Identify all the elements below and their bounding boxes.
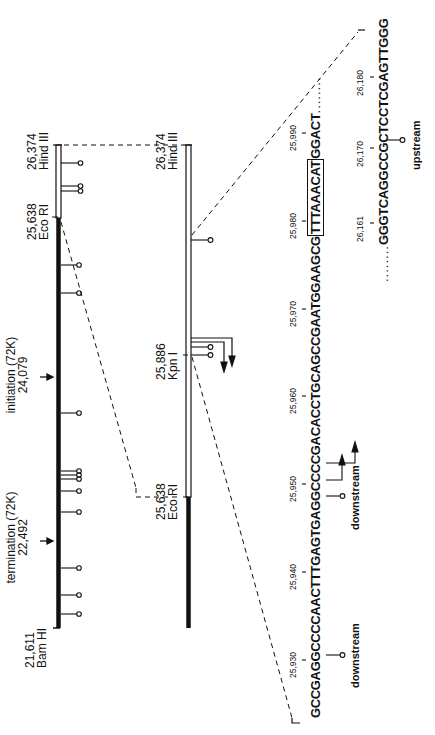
seq1-tick-label: 25,940 [289, 564, 298, 590]
seq1-tick-label: 25,970 [289, 301, 298, 327]
termination-position: 22,492 [17, 490, 29, 585]
enzyme-label: Eco RI [38, 203, 50, 240]
sequence-1: GCCGAGGCCCCAACTTTGAGTGAGGCCCCGACACCTGCAG… [309, 77, 323, 718]
termination-arrow-icon [40, 538, 53, 544]
seq2-tick-label: 26,180 [356, 70, 365, 96]
detail-map [183, 145, 235, 628]
detail-left-label: 25,638 Eco RI [155, 483, 179, 520]
enzyme-label: Kpn I [167, 343, 179, 380]
downstream-label-1: downstream [349, 623, 361, 688]
overview-right-end-label: 26,374 Hind III [26, 132, 50, 170]
seq1-tick-label: 25,980 [289, 213, 298, 239]
overview-lollipops [61, 161, 83, 617]
zoom-connectors [61, 145, 183, 497]
seq2-tick-label: 26,161 [356, 216, 365, 242]
upstream-label: upstream [410, 120, 422, 170]
enzyme-label: Eco RI [167, 483, 179, 520]
boxed-motif: TTTAAACAT [307, 159, 324, 237]
sequence-2-lead: ........ [376, 245, 391, 282]
seq1-tick-label: 25,930 [289, 652, 298, 678]
initiation-position: 24,079 [17, 330, 29, 420]
overview-left-end-label: 21,611 Bam HI [24, 628, 48, 668]
enzyme-label: Bam HI [36, 628, 48, 668]
enzyme-label: Hind III [38, 132, 50, 170]
initiation-arrow-icon [40, 374, 53, 380]
initiation-label: initiation (72K) 24,079 [5, 330, 29, 420]
seq1-tick-label: 25,990 [289, 125, 298, 151]
seq1-tick-label: 25,950 [289, 476, 298, 502]
sequence-2: ........GGGTCAGGCCGCTCCTCGAGTTGGG [377, 18, 391, 282]
map-graphics [0, 0, 435, 735]
seq1-tick-label: 25,960 [289, 388, 298, 414]
seq2-tick-label: 26,170 [356, 141, 365, 167]
sequence-1-continuation: ........ [308, 77, 323, 114]
detail-right-label: 26,374 Hind III [155, 132, 179, 170]
enzyme-label: Hind III [167, 132, 179, 170]
sequence-1-segment-a: GCCGAGGCCCCAACTTTGAGTGAGGCCCCGACACCTGCAG… [308, 236, 323, 718]
downstream-label-2: downstream [349, 465, 361, 530]
sequence-connectors [192, 32, 358, 718]
termination-label: termination (72K) 22,492 [5, 490, 29, 585]
overview-ecori-label: 25,638 Eco RI [26, 203, 50, 240]
sequence-1-segment-b: GGACT [308, 113, 323, 158]
sequence-2-bases: GGGTCAGGCCGCTCCTCGAGTTGGG [376, 18, 391, 245]
detail-kpn-label: 25,886 Kpn I [155, 343, 179, 380]
